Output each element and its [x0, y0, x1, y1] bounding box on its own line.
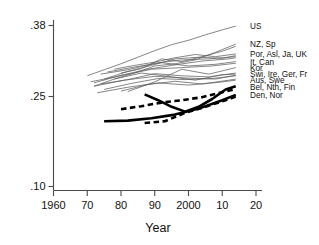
series-group-label: Den, Nor	[250, 91, 283, 100]
series-line	[114, 54, 236, 69]
y-tick-label: .25	[30, 90, 45, 102]
series-line	[94, 44, 236, 86]
chart-container: .38.25.10 196070809020001020 USNZ, SpPor…	[0, 0, 319, 245]
axis-layer	[54, 20, 263, 191]
series-line	[121, 79, 236, 91]
x-tick-label: 10	[216, 199, 228, 211]
x-tick-label: 90	[149, 199, 161, 211]
x-tick-label: 2000	[176, 199, 200, 211]
x-tick-label: 70	[81, 199, 93, 211]
series-layer	[87, 26, 236, 123]
x-tick-label: 20	[250, 199, 262, 211]
series-group-label: NZ, Sp	[250, 40, 276, 49]
line-chart: .38.25.10 196070809020001020 USNZ, SpPor…	[0, 0, 319, 245]
series-label-layer: USNZ, SpPor, Asl, Ja, UKIt, CanKorSwi, I…	[250, 22, 308, 100]
y-tick-label: .10	[30, 180, 45, 192]
series-line	[121, 89, 236, 109]
x-axis-title: Year	[145, 221, 170, 235]
x-tick-label: 1960	[41, 199, 65, 211]
y-tick-label: .38	[30, 19, 45, 31]
x-tick-layer: 196070809020001020	[41, 191, 262, 212]
y-tick-layer: .38.25.10	[30, 19, 53, 192]
x-tick-label: 80	[115, 199, 127, 211]
series-group-label: US	[250, 22, 262, 31]
